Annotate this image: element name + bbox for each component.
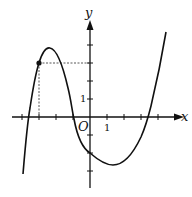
x-unit-label: 1 xyxy=(104,122,110,133)
y-axis-arrow-icon xyxy=(87,20,94,30)
function-graph: x y O 1 1 xyxy=(0,0,192,197)
cubic-curve xyxy=(23,32,166,174)
x-axis-label: x xyxy=(181,109,189,124)
origin-label: O xyxy=(78,119,89,134)
y-axis-label: y xyxy=(84,5,93,20)
y-unit-label: 1 xyxy=(80,93,86,104)
highlighted-point xyxy=(36,60,41,65)
